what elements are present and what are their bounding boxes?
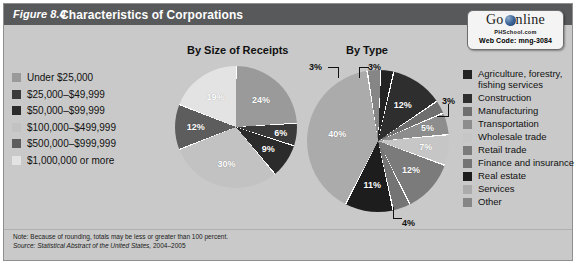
figure-note: Note: Because of rounding, totals may be…	[13, 232, 228, 250]
legend-swatch-icon	[463, 146, 472, 155]
figure-container: Figure 8.4 Characteristics of Corporatio…	[0, 0, 578, 268]
pie-callout-label-agriculture: 3%	[368, 62, 381, 72]
pie-slice-label: 7%	[419, 142, 432, 152]
legend-right-label: Retail trade	[478, 144, 527, 155]
globe-icon	[505, 15, 516, 26]
legend-swatch-icon	[463, 185, 472, 194]
legend-right-label: Finance and insurance	[478, 157, 574, 168]
legend-swatch-icon	[463, 70, 472, 79]
legend-right-item: Construction	[463, 92, 578, 103]
pie-slice-label: 11%	[364, 180, 382, 190]
pie-callout-label-finance: 4%	[402, 218, 415, 228]
pie-slice-label: 6%	[274, 128, 287, 138]
legend-right-item: Retail trade	[463, 144, 578, 155]
legend-left-item: $50,000–$99,999	[12, 103, 162, 118]
go-online-brand-online: nline	[516, 12, 546, 27]
legend-swatch-icon	[463, 133, 472, 142]
go-online-brand: Gonline	[468, 12, 563, 28]
pie-slice-label: 30%	[218, 159, 236, 169]
note-divider	[4, 229, 572, 230]
pie-chart-by-type: 12%5%7%12%11%40%	[307, 70, 449, 212]
pie-slice-label: 19%	[206, 92, 224, 102]
note-source-year: 2004–2005	[153, 242, 186, 249]
legend-swatch-icon	[12, 106, 21, 115]
go-online-brand-go: Go	[486, 12, 504, 27]
figure-number: Figure 8.4	[13, 8, 66, 20]
pie-callout-leader-other	[328, 67, 339, 68]
legend-swatch-icon	[463, 172, 472, 181]
legend-left-label: $25,000–$49,999	[27, 89, 105, 100]
legend-right-label: Manufacturing	[478, 105, 538, 116]
pie-callout-leader-manufacturing	[437, 116, 449, 117]
legend-right-label: Real estate	[478, 170, 526, 181]
legend-swatch-icon	[12, 156, 21, 165]
pie-slice-label: 24%	[252, 95, 270, 105]
pie-callout-label-other: 3%	[309, 62, 322, 72]
legend-right-label: Agriculture, forestry, fishing services	[478, 68, 562, 90]
legend-left-label: $100,000–$499,999	[27, 122, 116, 133]
legend-left-item: $1,000,000 or more	[12, 153, 162, 168]
figure-title: Characteristics of Corporations	[60, 8, 243, 22]
go-online-site: PHSchool.com	[468, 28, 563, 36]
note-line: Note: Because of rounding, totals may be…	[13, 232, 228, 241]
pie-callout-leader-other	[338, 67, 339, 78]
pie-slice-label: 40%	[328, 129, 346, 139]
note-source-label: Source:	[13, 242, 35, 249]
note-source-title: Statistical Abstract of the United State…	[37, 242, 151, 249]
legend-right-item: Real estate	[463, 170, 578, 181]
legend-by-type: Agriculture, forestry, fishing servicesC…	[463, 68, 578, 209]
legend-right-item: Wholesale trade	[463, 131, 578, 142]
go-online-web-code: Web Code: mng-3084	[468, 36, 563, 46]
pie-slice-label: 12%	[394, 100, 412, 110]
legend-left-label: $1,000,000 or more	[27, 155, 114, 166]
legend-swatch-icon	[12, 123, 21, 132]
pie-slice-label: 12%	[402, 165, 420, 175]
legend-swatch-icon	[463, 198, 472, 207]
legend-right-label: Wholesale trade	[478, 131, 547, 142]
pie-slice-label: 12%	[187, 122, 205, 132]
legend-swatch-icon	[463, 94, 472, 103]
legend-left-item: $100,000–$499,999	[12, 120, 162, 135]
legend-right-item: Finance and insurance	[463, 157, 578, 168]
legend-swatch-icon	[463, 159, 472, 168]
chart-title-by-type: By Type	[346, 44, 388, 56]
go-online-badge[interactable]: Gonline PHSchool.com Web Code: mng-3084	[467, 10, 564, 50]
legend-right-item: Transportation	[463, 118, 578, 129]
legend-right-item: Other	[463, 196, 578, 207]
legend-right-item: Manufacturing	[463, 105, 578, 116]
figure-frame: Figure 8.4 Characteristics of Corporatio…	[3, 3, 573, 261]
legend-right-item: Agriculture, forestry, fishing services	[463, 68, 578, 90]
legend-right-label: Services	[478, 183, 514, 194]
legend-swatch-icon	[12, 139, 21, 148]
pie-slice-label: 9%	[262, 144, 275, 154]
legend-swatch-icon	[12, 90, 21, 99]
legend-left-label: $500,000–$999,999	[27, 138, 116, 149]
legend-swatch-icon	[463, 107, 472, 116]
pie-chart-by-size-of-receipts: 24%6%9%30%12%19%	[175, 66, 297, 188]
legend-left-item: $25,000–$49,999	[12, 87, 162, 102]
legend-right-item: Services	[463, 183, 578, 194]
legend-left-label: Under $25,000	[27, 72, 93, 83]
pie-callout-leader-agriculture	[359, 67, 360, 78]
pie-callout-leader-agriculture	[359, 67, 369, 68]
legend-by-size-of-receipts: Under $25,000$25,000–$49,999$50,000–$99,…	[12, 70, 162, 169]
note-source: Source: Statistical Abstract of the Unit…	[13, 241, 228, 250]
chart-title-by-size-of-receipts: By Size of Receipts	[187, 44, 288, 56]
legend-left-item: Under $25,000	[12, 70, 162, 85]
legend-left-item: $500,000–$999,999	[12, 136, 162, 151]
pie-callout-leader-finance	[393, 218, 402, 219]
legend-swatch-icon	[463, 120, 472, 129]
pie-slice-label: 5%	[421, 123, 434, 133]
legend-swatch-icon	[12, 73, 21, 82]
legend-left-label: $50,000–$99,999	[27, 105, 105, 116]
pie-slice-separators	[307, 70, 449, 212]
legend-right-label: Transportation	[478, 118, 539, 129]
legend-right-label: Other	[478, 196, 502, 207]
legend-right-label: Construction	[478, 92, 531, 103]
